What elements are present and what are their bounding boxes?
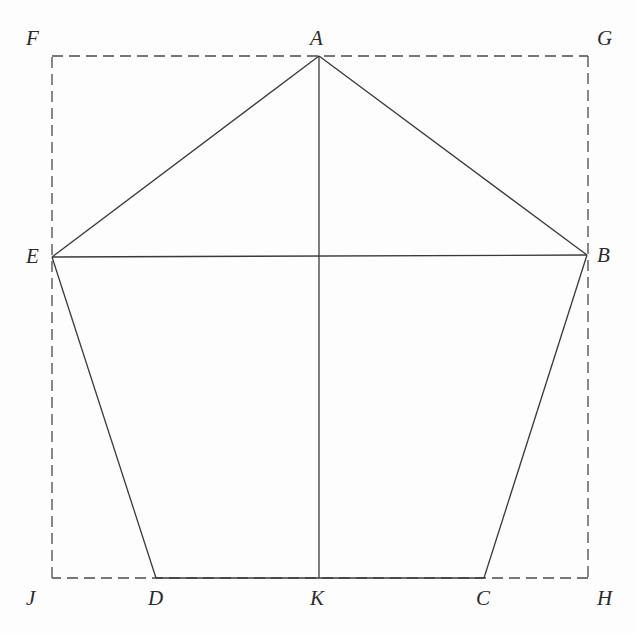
vertex-label-f: F	[26, 28, 39, 49]
figure-canvas: ABCDEFGHJK	[0, 0, 636, 633]
pentagon-and-construction-lines	[52, 56, 587, 578]
segment-EA-solid	[52, 56, 319, 257]
vertex-label-g: G	[597, 28, 612, 49]
vertex-label-e: E	[26, 246, 39, 267]
geometry-diagram	[0, 0, 636, 633]
segment-DE-solid	[52, 257, 156, 578]
vertex-label-a: A	[310, 28, 323, 49]
bounding-rectangle-dashed	[52, 56, 588, 578]
vertex-label-h: H	[597, 588, 612, 609]
segment-AB-solid	[319, 56, 587, 255]
vertex-label-c: C	[476, 588, 490, 609]
vertex-label-d: D	[148, 588, 163, 609]
vertex-label-k: K	[310, 588, 324, 609]
segment-BC-solid	[484, 255, 587, 578]
vertex-label-b: B	[597, 245, 610, 266]
vertex-label-j: J	[26, 588, 35, 609]
